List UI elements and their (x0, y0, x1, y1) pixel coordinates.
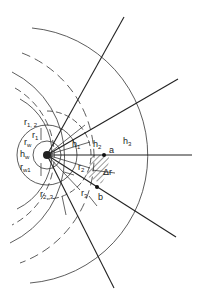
label-hw: hw (20, 149, 30, 160)
label-r2: r2 (78, 162, 85, 173)
label-delta-r: Δr (103, 167, 112, 177)
label-h3: h3 (123, 136, 132, 147)
ray-up (47, 79, 178, 155)
label-b: b (98, 192, 103, 202)
flow-lines (47, 17, 192, 288)
point-b (95, 185, 99, 189)
label-r23: r2, 3 (40, 189, 54, 200)
label-a: a (109, 145, 114, 155)
flow-net-diagram: r1, 2 r1 rw hw rw1 h1 h2 h3 a b Δr r2 r2… (0, 0, 199, 300)
label-r12: r1, 2 (24, 117, 38, 128)
label-r1: r1 (32, 130, 39, 141)
label-rw1: rw1 (20, 162, 31, 173)
label-h2: h2 (93, 139, 102, 150)
label-h1: h1 (72, 139, 81, 150)
label-rw: rw (24, 137, 32, 148)
point-a (102, 153, 106, 157)
label-r3: r3 (81, 188, 88, 199)
